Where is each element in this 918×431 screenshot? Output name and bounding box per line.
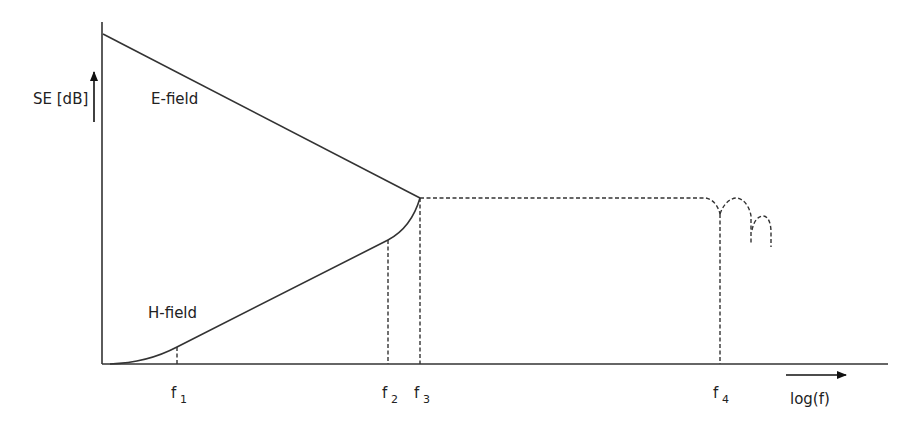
e-field-label: E-field [151,90,198,108]
svg-text:4: 4 [722,393,729,406]
svg-text:f: f [414,384,420,402]
y-axis-label: SE [dB] [33,90,88,108]
h-field-curve [110,198,420,364]
tick-f4: f 4 [713,384,729,406]
svg-text:f: f [713,384,719,402]
svg-text:1: 1 [180,393,187,406]
svg-text:3: 3 [423,393,430,406]
tick-f1: f 1 [171,384,187,406]
h-field-label: H-field [148,304,197,322]
resonance-arch-2 [752,216,771,247]
svg-text:2: 2 [391,393,398,406]
tick-f2: f 2 [382,384,398,406]
plateau-dashed-curve [420,198,720,214]
resonance-arch-1 [720,198,751,245]
svg-text:f: f [382,384,388,402]
shielding-effectiveness-diagram: SE [dB] log(f) E-field H-field f 1 f 2 f… [0,0,918,431]
x-axis-label: log(f) [790,390,830,408]
svg-text:f: f [171,384,177,402]
e-field-curve [103,34,420,198]
tick-f3: f 3 [414,384,430,406]
